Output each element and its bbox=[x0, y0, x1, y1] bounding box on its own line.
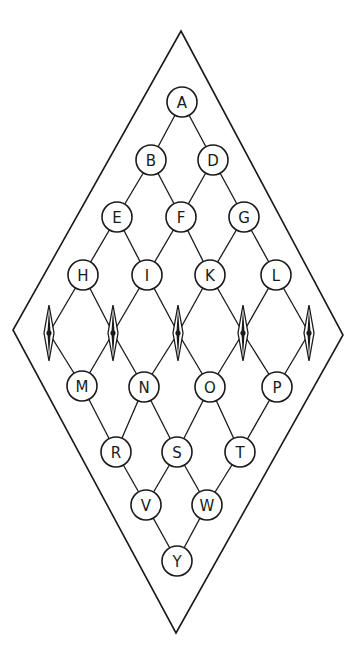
node-label: K bbox=[205, 267, 216, 285]
node-v: V bbox=[131, 490, 161, 520]
lattice-diagram: ABDEFGHIKLMNOPRSTVWY bbox=[0, 0, 359, 668]
node-label: P bbox=[272, 379, 281, 397]
node-label: R bbox=[111, 444, 121, 462]
node-label: E bbox=[112, 209, 121, 227]
node-label: M bbox=[76, 378, 89, 396]
lozenge-symbol-icon bbox=[108, 305, 118, 361]
node-label: I bbox=[145, 267, 149, 285]
node-i: I bbox=[132, 260, 162, 290]
node-d: D bbox=[198, 145, 228, 175]
node-y: Y bbox=[162, 546, 192, 576]
node-label: V bbox=[141, 497, 152, 515]
node-l: L bbox=[261, 260, 291, 290]
node-k: K bbox=[195, 260, 225, 290]
node-t: T bbox=[225, 437, 255, 467]
node-label: F bbox=[177, 209, 186, 227]
node-label: Y bbox=[171, 553, 182, 571]
node-label: S bbox=[172, 444, 182, 462]
node-label: O bbox=[204, 379, 216, 397]
node-f: F bbox=[166, 202, 196, 232]
node-label: L bbox=[272, 267, 281, 285]
node-w: W bbox=[192, 490, 222, 520]
node-label: H bbox=[77, 267, 88, 285]
node-s: S bbox=[162, 437, 192, 467]
node-r: R bbox=[101, 437, 131, 467]
node-label: T bbox=[234, 444, 245, 462]
node-g: G bbox=[229, 202, 259, 232]
node-b: B bbox=[136, 145, 166, 175]
node-label: W bbox=[200, 497, 215, 515]
node-label: D bbox=[207, 152, 219, 170]
node-label: G bbox=[238, 209, 250, 227]
node-p: P bbox=[262, 372, 292, 402]
lozenge-symbol-icon bbox=[304, 305, 314, 361]
node-m: M bbox=[67, 371, 97, 401]
node-o: O bbox=[195, 372, 225, 402]
node-e: E bbox=[102, 202, 132, 232]
node-label: A bbox=[177, 94, 188, 112]
lozenge-symbol-icon bbox=[173, 305, 183, 361]
node-label: N bbox=[138, 379, 149, 397]
node-h: H bbox=[68, 260, 98, 290]
lozenge-symbol-icon bbox=[44, 305, 54, 361]
node-a: A bbox=[167, 87, 197, 117]
node-label: B bbox=[146, 152, 156, 170]
lozenge-symbol-icon bbox=[238, 305, 248, 361]
lozenges-layer bbox=[44, 305, 314, 361]
node-n: N bbox=[129, 372, 159, 402]
